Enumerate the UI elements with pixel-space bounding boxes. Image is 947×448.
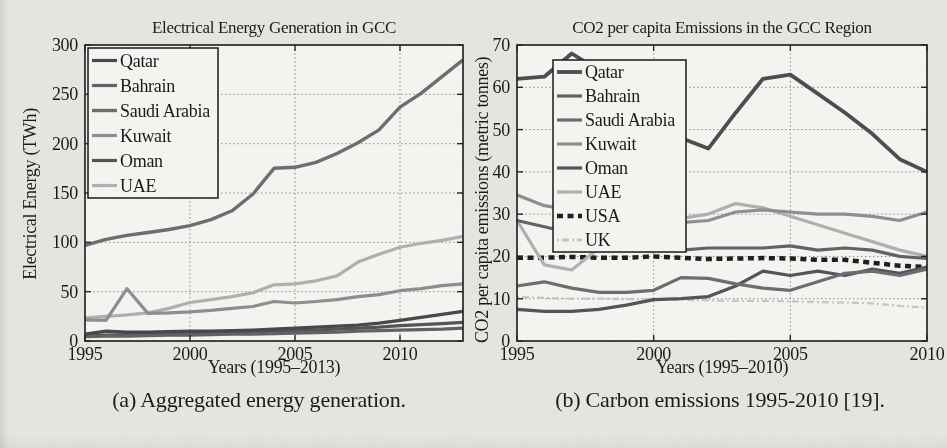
y-tick-label-100: 100 xyxy=(52,232,78,252)
y-tick-label-200: 200 xyxy=(52,134,78,154)
legend-energy-generation: QatarBahrainSaudi ArabiaKuwaitOmanUAE xyxy=(88,48,218,198)
legend-label-uae: UAE xyxy=(585,182,621,202)
legend-label-saudi-arabia: Saudi Arabia xyxy=(120,101,210,121)
y-tick-label-50: 50 xyxy=(493,120,511,140)
legend-label-bahrain: Bahrain xyxy=(585,86,640,106)
chart-a-y-axis-label: Electrical Energy (TWh) xyxy=(21,44,41,344)
legend-label-bahrain: Bahrain xyxy=(120,76,175,96)
y-tick-label-0: 0 xyxy=(69,331,78,351)
legend-label-oman: Oman xyxy=(120,151,163,171)
chart-a-title: Electrical Energy Generation in GCC xyxy=(85,19,463,38)
caption-b: (b) Carbon emissions 1995-2010 [19]. xyxy=(505,388,935,412)
y-tick-label-30: 30 xyxy=(493,204,511,224)
y-tick-label-250: 250 xyxy=(52,84,78,104)
y-tick-label-70: 70 xyxy=(493,35,511,55)
legend-label-oman: Oman xyxy=(585,158,628,178)
y-tick-label-60: 60 xyxy=(493,77,511,97)
y-tick-label-150: 150 xyxy=(52,183,78,203)
figure-scan: 1995200020052010050100150200250300QatarB… xyxy=(0,0,947,448)
chart-b-title: CO2 per capita Emissions in the GCC Regi… xyxy=(517,19,927,38)
y-tick-label-40: 40 xyxy=(493,162,511,182)
y-tick-label-20: 20 xyxy=(493,246,511,266)
legend-label-uk: UK xyxy=(585,230,611,250)
y-tick-label-50: 50 xyxy=(61,282,79,302)
legend-co2-emissions: QatarBahrainSaudi ArabiaKuwaitOmanUAEUSA… xyxy=(553,60,686,252)
chart-b-y-axis-label: CO2 per capita emissions (metric tonnes) xyxy=(473,40,493,360)
y-tick-label-0: 0 xyxy=(501,331,510,351)
legend-label-kuwait: Kuwait xyxy=(120,126,171,146)
y-tick-label-10: 10 xyxy=(493,289,511,309)
legend-label-kuwait: Kuwait xyxy=(585,134,636,154)
y-tick-label-300: 300 xyxy=(52,35,78,55)
legend-label-saudi-arabia: Saudi Arabia xyxy=(585,110,675,130)
chart-co2-emissions: 1995200020052010010203040506070QatarBahr… xyxy=(493,35,945,364)
chart-a-x-axis-label: Years (1995–2013) xyxy=(85,358,463,378)
chart-b-x-axis-label: Years (1995–2010) xyxy=(517,358,927,378)
caption-a: (a) Aggregated energy generation. xyxy=(70,388,448,412)
figure-content: 1995200020052010050100150200250300QatarB… xyxy=(0,0,947,448)
legend-label-qatar: Qatar xyxy=(585,62,624,82)
legend-label-uae: UAE xyxy=(120,176,156,196)
chart-energy-generation: 1995200020052010050100150200250300QatarB… xyxy=(52,35,463,364)
legend-label-usa: USA xyxy=(585,206,620,226)
legend-label-qatar: Qatar xyxy=(120,51,159,71)
